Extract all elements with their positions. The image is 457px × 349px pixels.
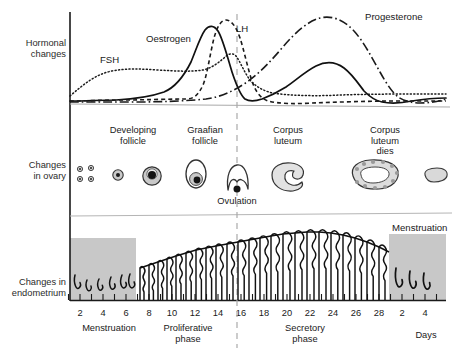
hormone-baseline bbox=[70, 104, 450, 107]
corpus-luteum-degenerating-icon bbox=[352, 160, 399, 190]
ovary-row-separator bbox=[70, 213, 452, 216]
curve-lh bbox=[70, 20, 446, 104]
graafian-follicle-icon bbox=[186, 160, 206, 188]
small-follicle-icon bbox=[113, 170, 123, 180]
menstrual-cycle-figure: Hormonal changes Changes in ovary Change… bbox=[0, 0, 457, 349]
menstruation-shading-left bbox=[70, 238, 136, 300]
corpus-luteum-icon bbox=[272, 163, 303, 191]
curve-progesterone bbox=[70, 17, 446, 103]
endometrium-glands-cycle bbox=[140, 230, 387, 300]
figure-graphics bbox=[0, 0, 457, 349]
growing-follicle-icon bbox=[143, 167, 161, 185]
ruptured-follicle-ovulation-icon bbox=[227, 165, 248, 193]
corpus-albicans-icon bbox=[425, 168, 447, 182]
primordial-follicles-icon bbox=[77, 165, 93, 181]
curve-oestrogen bbox=[70, 26, 446, 103]
menstruation-shading-right bbox=[389, 234, 446, 300]
curve-fsh bbox=[70, 54, 446, 96]
